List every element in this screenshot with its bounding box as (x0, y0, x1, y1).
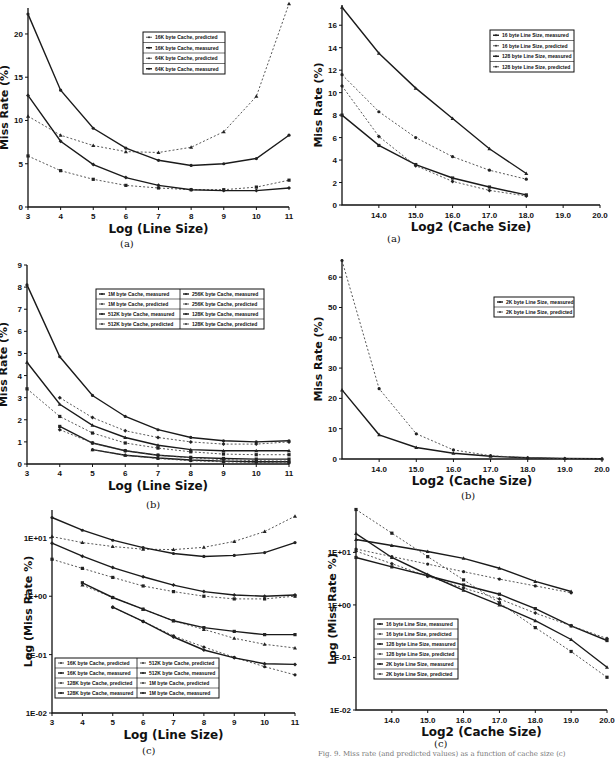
caption-left-b: (b) (146, 499, 160, 510)
legend-entry: 256K byte Cache, measured (192, 291, 258, 297)
legend-entry: 512K byte Cache, predicted (108, 321, 173, 327)
y-tick-label: 2 (333, 179, 338, 188)
x-tick-label: 20.0 (599, 716, 615, 725)
x-tick-label: 9 (232, 718, 237, 727)
legend-entry: 16 byte Line Size, predicted (502, 43, 568, 49)
legend-entry: 16K byte Cache, predicted (67, 660, 130, 666)
y-tick-label: 30 (328, 364, 337, 373)
x-tick-label: 9 (222, 212, 227, 221)
legend-entry: 2K byte Line Size, measured (506, 299, 574, 305)
x-tick-label: 4 (58, 469, 63, 478)
x-tick-label: 16.0 (445, 211, 461, 220)
legend: 2K byte Line Size, measured2K byte Line … (494, 297, 574, 317)
legend: 1M byte Cache, measured1M byte Cache, pr… (96, 289, 264, 329)
legend: 16K byte Cache, predicted16K byte Cache,… (143, 32, 225, 74)
axes (342, 259, 602, 459)
caption-right-a: (a) (387, 233, 401, 244)
x-tick-label: 15.0 (408, 465, 424, 474)
y-tick-label: 10 (328, 425, 337, 434)
legend-entry: 512K byte Cache, measured (108, 311, 174, 317)
legend-entry: 128K byte Cache, measured (192, 311, 258, 317)
chart-left_b: 012345678934567891011Log (Line Size)Miss… (0, 261, 294, 493)
x-tick-label: 10 (260, 718, 269, 727)
x-tick-label: 8 (189, 212, 194, 221)
x-tick-label: 14.0 (371, 465, 387, 474)
x-tick-label: 11 (285, 469, 294, 478)
legend-entry: 1M byte Cache, predicted (108, 301, 168, 307)
y-tick-label: 4 (333, 156, 338, 165)
legend-entry: 16K byte Cache, measured (67, 670, 131, 676)
y-tick-label: 14 (328, 44, 337, 53)
x-tick-label: 5 (111, 718, 116, 727)
x-tick-label: 3 (25, 469, 30, 478)
x-axis-label: Log (Line Size) (108, 479, 208, 493)
chart-right_b: 010203040506014.015.016.017.018.019.020.… (312, 259, 610, 488)
y-tick-label: 16 (328, 21, 337, 30)
y-tick-label: 0 (18, 460, 23, 469)
series-line (342, 75, 526, 180)
y-axis-label: Miss Rate (%) (0, 65, 11, 150)
x-tick-label: 10 (252, 469, 261, 478)
y-tick-label: 60 (328, 273, 337, 282)
y-tick-label: 0 (333, 455, 338, 464)
y-tick-label: 10 (14, 116, 23, 125)
x-tick-label: 7 (171, 718, 176, 727)
figure-footnote: Fig. 9. Miss rate (and predicted values)… (318, 750, 566, 758)
legend-entry: 1M byte Cache, predicted (149, 680, 209, 686)
x-tick-label: 19.0 (555, 211, 571, 220)
legend-entry: 64K byte Cache, measured (155, 66, 219, 72)
x-tick-label: 18.0 (520, 465, 536, 474)
series-line (28, 4, 289, 153)
legend-entry: 16 byte Line Size, predicted (386, 631, 452, 637)
chart-left_c: 1E-021E-011E+001E+0134567891011Log (Line… (22, 510, 300, 742)
x-tick-label: 6 (123, 469, 128, 478)
x-tick-label: 16.0 (446, 465, 462, 474)
x-axis-label: Log2 (Cache Size) (412, 474, 533, 488)
x-tick-label: 17.0 (492, 716, 508, 725)
x-tick-label: 14.0 (384, 716, 400, 725)
y-axis-label: Miss Rate (%) (312, 316, 325, 401)
x-tick-label: 15.0 (408, 211, 424, 220)
y-tick-label: 8 (333, 111, 338, 120)
y-tick-label: 1E-02 (330, 706, 352, 715)
y-axis-label: Log (Miss Rate %) (326, 553, 339, 664)
x-tick-label: 7 (156, 469, 161, 478)
x-tick-label: 19.0 (557, 465, 573, 474)
legend: 16 byte Line Size, measured16 byte Line … (374, 619, 458, 679)
y-tick-label: 1E-02 (26, 709, 48, 718)
x-tick-label: 3 (26, 212, 31, 221)
y-tick-label: 20 (14, 30, 23, 39)
x-tick-label: 17.0 (483, 465, 499, 474)
y-tick-label: 0 (333, 201, 338, 210)
chart-right_c: 1E-021E-011E+001E+0114.015.016.017.018.0… (326, 508, 615, 739)
y-tick-label: 15 (14, 73, 23, 82)
series-line (28, 95, 289, 190)
legend: 16K byte Cache, predicted16K byte Cache,… (55, 658, 219, 698)
legend-entry: 128K byte Cache, predicted (192, 321, 257, 327)
x-tick-label: 14.0 (371, 211, 387, 220)
x-tick-label: 5 (91, 212, 96, 221)
y-tick-label: 1E+01 (24, 534, 48, 543)
x-tick-label: 5 (90, 469, 95, 478)
chart-right_a: 024681012141614.015.016.017.018.019.020.… (312, 5, 608, 234)
y-tick-label: 20 (328, 394, 337, 403)
series-line (60, 398, 289, 444)
x-tick-label: 3 (50, 718, 55, 727)
y-axis-label: Miss Rate (%) (312, 62, 325, 147)
x-tick-label: 11 (291, 718, 300, 727)
y-tick-label: 0 (19, 203, 24, 212)
x-tick-label: 10 (252, 212, 261, 221)
legend-entry: 16 byte Line Size, measured (386, 621, 453, 627)
legend-entry: 128 byte Line Size, measured (502, 53, 571, 59)
legend-entry: 128K byte Cache, predicted (67, 680, 132, 686)
caption-left-a: (a) (120, 238, 134, 249)
legend-entry: 1M byte Cache, measured (108, 291, 169, 297)
series-line (52, 543, 295, 596)
legend-entry: 2K byte Line Size, measured (386, 661, 454, 667)
x-tick-label: 6 (124, 212, 129, 221)
x-tick-label: 18.0 (518, 211, 534, 220)
series-line (342, 261, 602, 459)
y-tick-label: 10 (328, 89, 337, 98)
legend-entry: 128 byte Line Size, measured (386, 641, 455, 647)
